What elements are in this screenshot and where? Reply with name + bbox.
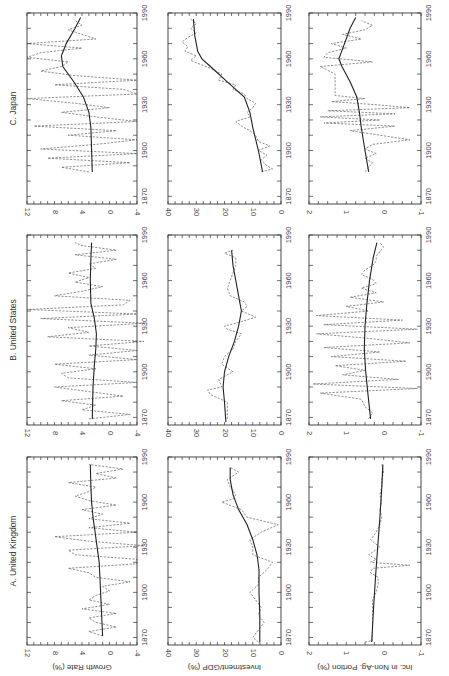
year-tick-label: 1930 <box>284 539 293 556</box>
year-tick-label: 1990 <box>424 5 433 22</box>
year-tick-label: 1990 <box>140 449 149 466</box>
year-tick-label: 1930 <box>424 539 433 556</box>
annual-series-line <box>55 465 144 637</box>
year-tick-label: 1990 <box>284 449 293 466</box>
value-tick-label: 1 <box>342 210 351 214</box>
year-tick-label: 1930 <box>424 318 433 335</box>
value-tick-label: 12 <box>23 429 32 437</box>
chart-panel: -40481218701900193019601990C. Japan <box>8 5 149 217</box>
chart-panel: -101218701900193019601990 <box>305 227 433 437</box>
value-tick-label: 2 <box>305 431 314 435</box>
value-tick-label: 0 <box>380 210 389 214</box>
year-tick-label: 1930 <box>284 318 293 335</box>
value-tick-label: 20 <box>221 429 230 437</box>
trend-line <box>339 18 369 172</box>
axis-title: Investment/GDP (%) <box>188 663 262 672</box>
value-tick-label: 4 <box>78 431 87 435</box>
year-tick-label: 1870 <box>284 629 293 646</box>
axis-title: Growth Rate (%) <box>52 663 112 672</box>
value-tick-label: -1 <box>417 430 426 437</box>
value-tick-label: -4 <box>133 650 142 657</box>
panel-title: A. United Kingdom <box>8 516 18 587</box>
year-tick-label: 1900 <box>140 584 149 601</box>
year-tick-label: 1990 <box>424 449 433 466</box>
value-tick-label: 40 <box>164 208 173 216</box>
year-tick-label: 1960 <box>424 272 433 289</box>
year-tick-label: 1960 <box>424 50 433 67</box>
value-tick-label: 10 <box>249 208 258 216</box>
value-tick-label: 0 <box>277 210 286 214</box>
value-tick-label: 12 <box>23 208 32 216</box>
plot-frame <box>168 13 281 204</box>
year-tick-label: 1870 <box>424 629 433 646</box>
value-tick-label: 30 <box>192 649 201 657</box>
annual-series-line <box>27 243 144 419</box>
year-tick-label: 1870 <box>140 629 149 646</box>
value-tick-label: 0 <box>106 210 115 214</box>
value-tick-label: 0 <box>106 651 115 655</box>
year-tick-label: 1900 <box>140 363 149 380</box>
year-tick-label: 1930 <box>284 96 293 113</box>
chart-panel: -40481218701900193019601990B. United Sta… <box>8 227 149 438</box>
value-tick-label: -4 <box>133 209 142 216</box>
chart-panel: 01020304018701900193019601990Investment/… <box>164 449 293 672</box>
year-tick-label: 1870 <box>140 409 149 426</box>
value-tick-label: 4 <box>78 651 87 655</box>
value-tick-label: 10 <box>249 429 258 437</box>
value-tick-label: 20 <box>221 649 230 657</box>
value-tick-label: 40 <box>164 649 173 657</box>
annual-series-line <box>222 468 279 643</box>
year-tick-label: 1960 <box>284 272 293 289</box>
year-tick-label: 1930 <box>140 539 149 556</box>
value-tick-label: -4 <box>133 430 142 437</box>
year-tick-label: 1900 <box>140 142 149 159</box>
year-tick-label: 1930 <box>424 96 433 113</box>
chart-panel: -40481218701900193019601990A. United Kin… <box>8 449 149 672</box>
value-tick-label: 4 <box>78 210 87 214</box>
year-tick-label: 1930 <box>140 96 149 113</box>
value-tick-label: 0 <box>277 651 286 655</box>
value-tick-label: 0 <box>277 431 286 435</box>
plot-frame <box>27 457 137 645</box>
year-tick-label: 1960 <box>284 50 293 67</box>
year-tick-label: 1990 <box>284 5 293 22</box>
chart-panel: -101218701900193019601990Inc. in Non-Ag.… <box>305 449 433 672</box>
year-tick-label: 1960 <box>140 272 149 289</box>
year-tick-label: 1900 <box>284 363 293 380</box>
year-tick-label: 1930 <box>140 318 149 335</box>
year-tick-label: 1870 <box>424 409 433 426</box>
year-tick-label: 1900 <box>284 584 293 601</box>
plot-frame <box>309 13 421 204</box>
value-tick-label: 8 <box>51 210 60 214</box>
value-tick-label: 8 <box>51 651 60 655</box>
value-tick-label: -1 <box>417 209 426 216</box>
year-tick-label: 1870 <box>140 188 149 205</box>
value-tick-label: 30 <box>192 429 201 437</box>
annual-series-line <box>365 465 410 643</box>
year-tick-label: 1960 <box>140 50 149 67</box>
year-tick-label: 1900 <box>424 142 433 159</box>
value-tick-label: 10 <box>249 649 258 657</box>
value-tick-label: 2 <box>305 210 314 214</box>
value-tick-label: 2 <box>305 651 314 655</box>
chart-panel: 01020304018701900193019601990 <box>164 227 293 438</box>
year-tick-label: 1870 <box>284 409 293 426</box>
panel-title: B. United States <box>8 299 18 360</box>
year-tick-label: 1900 <box>284 142 293 159</box>
value-tick-label: 30 <box>192 208 201 216</box>
value-tick-label: 20 <box>221 208 230 216</box>
value-tick-label: -1 <box>417 650 426 657</box>
panel-title: C. Japan <box>8 91 18 125</box>
chart-panel: 01020304018701900193019601990 <box>164 5 293 217</box>
year-tick-label: 1990 <box>140 5 149 22</box>
year-tick-label: 1960 <box>284 494 293 511</box>
trend-line <box>223 250 241 422</box>
value-tick-label: 1 <box>342 651 351 655</box>
year-tick-label: 1900 <box>424 584 433 601</box>
figure-canvas: -40481218701900193019601990A. United Kin… <box>0 0 449 676</box>
year-tick-label: 1990 <box>284 227 293 244</box>
plot-frame <box>309 457 421 645</box>
plot-frame <box>27 13 137 204</box>
value-tick-label: 0 <box>380 431 389 435</box>
trend-line <box>230 468 260 643</box>
